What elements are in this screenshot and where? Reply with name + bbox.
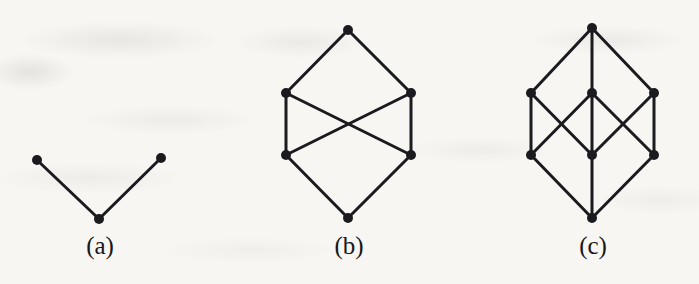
figure-caption-a: (a) <box>55 232 145 260</box>
graph-edge-c-lower-right-to-c-bottom <box>592 155 654 218</box>
graph-edge-a-left-to-a-bottom <box>37 160 99 219</box>
figure-c <box>526 23 659 223</box>
figure-page: (a) (b) (c) <box>0 0 699 284</box>
figure-caption-b: (b) <box>304 232 394 260</box>
graph-vertex-c-center-upper <box>587 88 597 98</box>
figure-a <box>32 153 166 224</box>
graph-edge-b-top-to-b-upper-left <box>286 30 348 93</box>
graph-vertex-b-lower-left <box>281 150 291 160</box>
figure-caption-c: (c) <box>548 232 638 260</box>
graph-vertex-a-left <box>32 155 42 165</box>
graph-vertex-c-top <box>587 23 597 33</box>
graph-vertex-c-lower-left <box>526 150 536 160</box>
graph-edge-c-top-to-c-upper-left <box>531 28 592 93</box>
graph-edge-c-top-to-c-upper-right <box>592 28 654 93</box>
graph-vertex-c-center-lower <box>587 150 597 160</box>
graph-vertex-b-top <box>343 25 353 35</box>
graph-edge-b-lower-right-to-b-bottom <box>348 155 411 218</box>
graph-edge-c-lower-left-to-c-bottom <box>531 155 592 218</box>
graph-vertex-b-upper-right <box>406 88 416 98</box>
graph-vertex-c-upper-right <box>649 88 659 98</box>
graph-edge-b-top-to-b-upper-right <box>348 30 411 93</box>
graph-vertex-b-upper-left <box>281 88 291 98</box>
figure-b <box>281 25 416 223</box>
graph-vertex-a-bottom <box>94 214 104 224</box>
graph-vertex-c-lower-right <box>649 150 659 160</box>
graph-vertex-c-bottom <box>587 213 597 223</box>
graph-edge-a-right-to-a-bottom <box>99 158 161 219</box>
graph-edge-b-lower-left-to-b-bottom <box>286 155 348 218</box>
graph-vertex-b-lower-right <box>406 150 416 160</box>
graph-vertex-c-upper-left <box>526 88 536 98</box>
graph-vertex-b-bottom <box>343 213 353 223</box>
graph-vertex-a-right <box>156 153 166 163</box>
